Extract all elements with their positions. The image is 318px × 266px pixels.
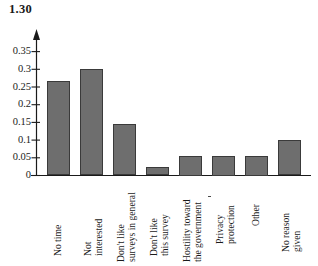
- bar-hostility-government: [179, 156, 202, 176]
- x-label-not-interested: Not interested: [83, 219, 104, 256]
- x-label-other: Other: [251, 204, 262, 226]
- bar-dont-like-this-survey: [146, 167, 169, 176]
- x-label-dont-like-this-survey: Don't like this survey: [149, 214, 170, 256]
- bar-other: [245, 156, 268, 176]
- bar-dont-like-surveys: [113, 124, 136, 175]
- bar-no-time: [47, 81, 70, 175]
- bar-privacy-protection: [212, 156, 235, 176]
- plot-area: 0 0.05 0.1 0.15 0.2 0.25 0.3 0.35: [0, 0, 318, 266]
- stray-mark: [208, 196, 211, 197]
- figure-bar-chart: 1.30 0 0.05: [0, 0, 318, 266]
- bar-no-reason-given: [278, 140, 301, 175]
- x-label-no-reason-given: No reason given: [281, 213, 302, 252]
- x-label-dont-like-surveys: Don't like surveys in general: [116, 192, 137, 262]
- x-label-hostility-government: Hostility toward the government: [182, 199, 203, 262]
- bar-not-interested: [80, 69, 103, 176]
- x-label-no-time: No time: [53, 225, 64, 256]
- x-label-privacy-protection: Privacy protection: [215, 205, 236, 244]
